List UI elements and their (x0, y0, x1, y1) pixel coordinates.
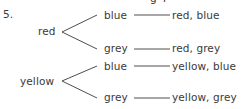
branch-yellow-blue (62, 66, 97, 81)
branch-yellow-grey (62, 81, 97, 98)
node-yellow-blue: blue (104, 60, 127, 72)
branch-red-blue (62, 15, 97, 32)
outcome-yellow-grey: yellow, grey (172, 91, 237, 103)
node-red-blue: blue (104, 9, 127, 21)
outcome-red-blue: red, blue (172, 9, 219, 21)
outcome-red-grey: red, grey (172, 42, 220, 54)
branch-red-grey (62, 32, 97, 49)
node-red-grey: grey (104, 42, 128, 54)
node-yellow: yellow (20, 75, 54, 87)
node-yellow-grey: grey (104, 91, 128, 103)
outcome-yellow-blue: yellow, blue (172, 60, 236, 72)
node-red: red (38, 25, 56, 37)
